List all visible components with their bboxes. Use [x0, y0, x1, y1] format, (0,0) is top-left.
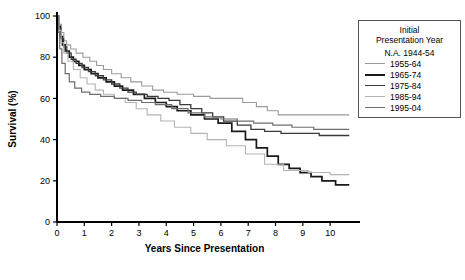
curve-1975-84: [57, 16, 349, 135]
x-tick-label: 2: [109, 228, 114, 238]
legend-item[interactable]: 1985-94: [359, 91, 460, 102]
x-tick-label: 9: [300, 228, 305, 238]
legend-item-label: 1965-74: [390, 70, 421, 80]
y-tick-label: 40: [40, 135, 50, 145]
legend-item-label: 1975-84: [390, 81, 421, 91]
y-tick-label: 20: [40, 176, 50, 186]
y-tick-label: 60: [40, 94, 50, 104]
legend: Initial Presentation Year N.A. 1944-5419…: [358, 20, 461, 118]
x-tick-label: 3: [136, 228, 141, 238]
survival-plot: 020406080100012345678910 Years Since Pre…: [0, 0, 365, 280]
legend-item[interactable]: 1965-74: [359, 69, 460, 80]
curve-1955-64: [57, 16, 349, 115]
x-tick-label: 8: [273, 228, 278, 238]
legend-item[interactable]: 1955-64: [359, 58, 460, 69]
legend-line-swatch: [365, 107, 385, 108]
y-tick-label: 80: [40, 52, 50, 62]
legend-line-swatch: [365, 85, 385, 86]
legend-item-label: 1955-64: [390, 59, 421, 69]
y-axis-title: Survival (%): [7, 90, 18, 147]
legend-title-line1: Initial: [361, 25, 458, 35]
chart-figure: 020406080100012345678910 Years Since Pre…: [0, 0, 465, 280]
x-tick-label: 10: [325, 228, 335, 238]
legend-item[interactable]: 1975-84: [359, 80, 460, 91]
y-tick-label: 100: [35, 11, 50, 21]
curve-1965-74: [57, 16, 349, 185]
curve-1995-04: [57, 16, 349, 129]
x-tick-label: 1: [82, 228, 87, 238]
x-axis-title: Years Since Presentation: [145, 243, 265, 254]
legend-item[interactable]: N.A. 1944-54: [359, 47, 460, 58]
survival-curves: [57, 16, 349, 185]
legend-line-swatch: [365, 74, 385, 76]
legend-line-swatch: [365, 63, 385, 64]
legend-item-label: N.A. 1944-54: [384, 48, 434, 58]
legend-item-label: 1985-94: [390, 92, 421, 102]
x-tick-label: 7: [246, 228, 251, 238]
y-tick-label: 0: [45, 217, 50, 227]
legend-item[interactable]: 1995-04: [359, 102, 460, 113]
legend-title-line2: Presentation Year: [361, 35, 458, 45]
x-tick-label: 0: [54, 228, 59, 238]
x-tick-label: 4: [164, 228, 169, 238]
x-tick-label: 6: [218, 228, 223, 238]
legend-entries: N.A. 1944-541955-641965-741975-841985-94…: [359, 47, 460, 117]
legend-title: Initial Presentation Year: [359, 21, 460, 47]
legend-line-swatch: [365, 96, 385, 97]
x-tick-label: 5: [191, 228, 196, 238]
legend-item-label: 1995-04: [390, 103, 421, 113]
